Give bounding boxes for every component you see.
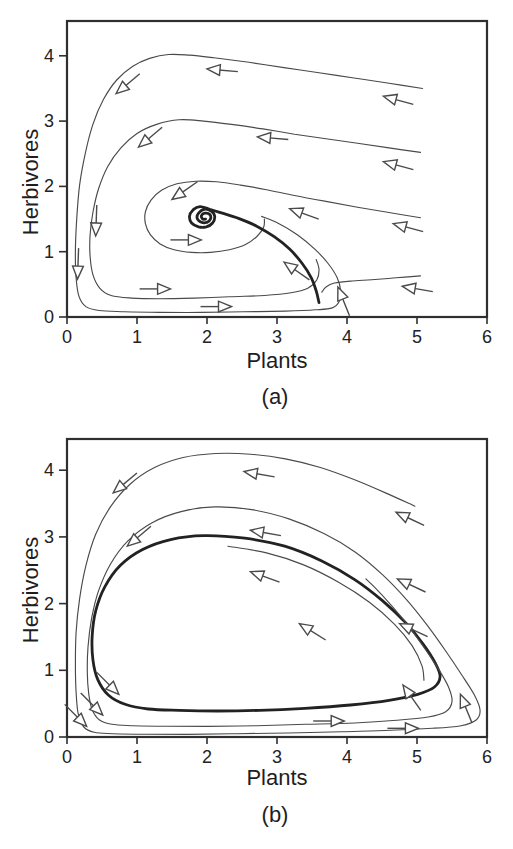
- flow-arrow-icon: [382, 156, 415, 174]
- flow-arrow-icon: [207, 64, 239, 77]
- panel-caption-b: (b): [262, 802, 289, 828]
- svg-text:3: 3: [272, 747, 282, 767]
- figure-page: 012345601234 Herbivores Plants (a) 01234…: [0, 0, 513, 849]
- trajectory-limit-cycle: [92, 536, 440, 711]
- svg-text:0: 0: [62, 747, 72, 767]
- svg-text:2: 2: [44, 594, 54, 614]
- flow-arrow-icon: [113, 70, 144, 98]
- flow-arrow-icon: [455, 692, 477, 725]
- svg-text:5: 5: [412, 327, 422, 347]
- svg-text:6: 6: [482, 327, 492, 347]
- svg-text:4: 4: [342, 747, 352, 767]
- svg-text:2: 2: [202, 747, 212, 767]
- svg-text:2: 2: [202, 327, 212, 347]
- flow-arrow-icon: [135, 123, 166, 151]
- svg-text:3: 3: [272, 327, 282, 347]
- trajectory-lower-right-trajectory: [322, 276, 421, 292]
- svg-text:3: 3: [44, 111, 54, 131]
- flow-arrow-icon: [313, 716, 344, 727]
- flow-arrow-icon: [61, 701, 91, 731]
- flow-arrow-icon: [249, 567, 282, 588]
- flow-arrow-icon: [387, 723, 418, 734]
- svg-text:4: 4: [44, 46, 54, 66]
- flow-arrow-icon: [395, 574, 428, 597]
- flow-arrow-icon: [201, 301, 232, 312]
- trajectory-bold-spiral-to-equilibrium: [189, 207, 319, 303]
- svg-text:1: 1: [44, 660, 54, 680]
- flow-arrow-icon: [243, 466, 275, 482]
- trajectory-outer-trajectory: [75, 54, 422, 312]
- svg-text:5: 5: [412, 747, 422, 767]
- svg-text:0: 0: [44, 307, 54, 327]
- x-axis-label-b: Plants: [246, 765, 307, 791]
- flow-arrow-icon: [288, 204, 321, 225]
- svg-text:2: 2: [44, 176, 54, 196]
- flow-arrow-icon: [297, 619, 329, 645]
- svg-text:4: 4: [44, 460, 54, 480]
- svg-text:1: 1: [132, 327, 142, 347]
- phase-plot-panel-b: 012345601234 Herbivores Plants (b): [0, 420, 513, 849]
- svg-text:4: 4: [342, 327, 352, 347]
- flow-arrow-icon: [392, 218, 425, 236]
- trajectory-outer-spiral-trajectory: [75, 453, 480, 734]
- flow-arrow-icon: [401, 281, 433, 297]
- flow-arrow-icon: [140, 284, 171, 295]
- svg-text:3: 3: [44, 527, 54, 547]
- phase-plot-panel-a: 012345601234 Herbivores Plants (a): [0, 0, 513, 420]
- svg-text:6: 6: [482, 747, 492, 767]
- svg-text:1: 1: [132, 747, 142, 767]
- svg-text:0: 0: [62, 327, 72, 347]
- flow-arrow-icon: [394, 507, 427, 530]
- flow-arrow-icon: [333, 285, 355, 318]
- svg-text:0: 0: [44, 727, 54, 747]
- y-axis-label-b: Herbivores: [18, 537, 44, 643]
- x-axis-label-a: Plants: [246, 348, 307, 374]
- flow-arrow-icon: [257, 131, 289, 144]
- y-axis-label-a: Herbivores: [18, 129, 44, 235]
- flow-arrow-icon: [170, 235, 201, 246]
- panel-caption-a: (a): [262, 384, 289, 410]
- flow-arrow-icon: [382, 91, 415, 109]
- flow-arrow-icon: [110, 469, 141, 497]
- svg-text:1: 1: [44, 242, 54, 262]
- flow-arrow-icon: [72, 248, 84, 279]
